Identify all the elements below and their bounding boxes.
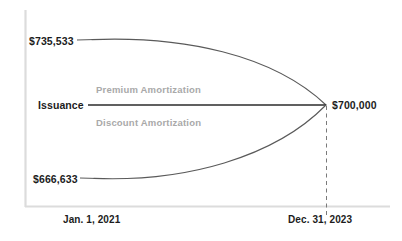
x-axis-tick-end: Dec. 31, 2023 <box>288 215 352 225</box>
value-label-discount-start: $666,633 <box>33 174 78 185</box>
value-label-premium-start: $735,533 <box>29 36 74 47</box>
amortization-chart: $735,533 Issuance $666,633 $700,000 Prem… <box>0 0 402 241</box>
annotation-premium-amortization: Premium Amortization <box>96 85 201 95</box>
value-label-convergence: $700,000 <box>332 100 377 111</box>
premium-amortization-curve <box>92 39 326 105</box>
x-axis-tick-start: Jan. 1, 2021 <box>63 215 120 225</box>
annotation-discount-amortization: Discount Amortization <box>96 118 201 128</box>
value-label-issuance: Issuance <box>38 100 84 111</box>
